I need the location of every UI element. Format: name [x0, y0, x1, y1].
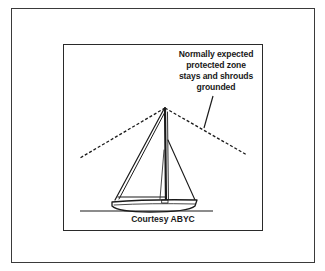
callout-leader-line — [204, 96, 213, 128]
sailboat-diagram — [0, 0, 325, 271]
sailboat — [112, 108, 197, 212]
protected-zone-callout: Normally expected protected zone stays a… — [170, 49, 262, 93]
mast — [165, 108, 166, 204]
zone-left-boundary — [80, 108, 165, 158]
forestay — [115, 109, 164, 200]
callout-line-3: stays and shrouds — [170, 71, 262, 82]
callout-line-2: protected zone — [170, 60, 262, 71]
backstay — [168, 140, 195, 200]
figure-credit: Courtesy ABYC — [63, 214, 263, 224]
zone-right-boundary — [165, 108, 247, 155]
hull — [112, 200, 197, 212]
callout-line-4: grounded — [170, 82, 262, 93]
callout-line-1: Normally expected — [170, 49, 262, 60]
